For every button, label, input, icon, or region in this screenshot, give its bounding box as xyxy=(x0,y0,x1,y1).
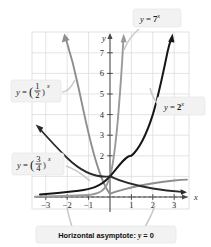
x-tick-label: 1 xyxy=(129,200,133,210)
label-three-quarters-denominator: 4 xyxy=(36,163,41,173)
label-one-half-text: y = ( xyxy=(15,84,33,99)
figure-canvas: −3 −2 −1 1 2 3 2 3 4 5 6 7 x y xyxy=(0,0,211,247)
label-one-half-denominator: 2 xyxy=(35,90,39,100)
label-three-quarters-paren-close: ) xyxy=(43,160,46,170)
exponential-functions-figure: −3 −2 −1 1 2 3 2 3 4 5 6 7 x y xyxy=(0,0,211,247)
y-tick-label: 6 xyxy=(100,68,104,78)
y-tick-label: 3 xyxy=(100,130,104,140)
label-one-half-exponent: x xyxy=(46,83,50,89)
y-tick-label: 2 xyxy=(100,151,104,161)
horizontal-asymptote-caption: Horizontal asymptote: y = 0 xyxy=(36,226,176,243)
label-three-quarters-text: y = ( xyxy=(16,157,34,172)
label-seven-text: y = 7x xyxy=(139,13,160,24)
callout-one-half-power-x: y = ( 1 2 ) x xyxy=(11,80,61,102)
x-tick-label: −3 xyxy=(41,200,50,210)
y-tick-label: 5 xyxy=(100,89,104,99)
callout-seven-power-x: y = 7x xyxy=(133,9,181,27)
x-tick-label: −1 xyxy=(84,200,93,210)
horizontal-asymptote-caption-text: Horizontal asymptote: y = 0 xyxy=(58,231,154,240)
label-three-quarters-exponent: x xyxy=(47,156,51,162)
x-axis-label: x xyxy=(193,192,198,202)
callout-two-power-x: y = 2x xyxy=(157,97,205,115)
callout-three-quarters-power-x: y = ( 3 4 ) x xyxy=(12,153,64,175)
y-tick-label: 7 xyxy=(100,48,104,58)
label-two-text: y = 2x xyxy=(163,101,184,112)
y-axis-label: y xyxy=(101,33,106,43)
label-one-half-paren-close: ) xyxy=(42,87,45,97)
x-tick-label: 3 xyxy=(172,200,176,210)
